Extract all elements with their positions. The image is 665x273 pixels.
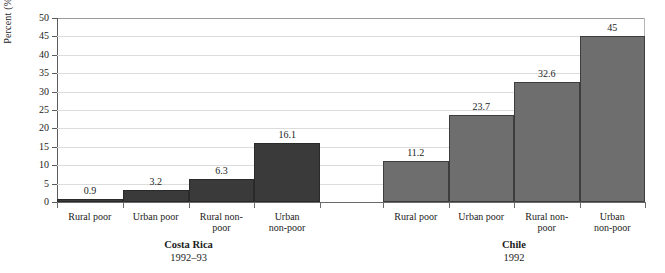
group-period: 1992–93 (57, 251, 320, 264)
group-period: 1992 (383, 251, 645, 264)
bar-value-label: 3.2 (123, 177, 189, 187)
y-axis-tick-label: 20 (39, 123, 49, 133)
x-axis-tick-mark (383, 202, 384, 208)
group-name: Chile (383, 238, 645, 251)
bar-value-label: 32.6 (514, 69, 580, 79)
bar-value-label: 0.9 (57, 186, 123, 196)
group-name: Costa Rica (57, 238, 320, 251)
bar (383, 161, 449, 202)
y-axis-title: Percent (%) (2, 0, 16, 74)
x-axis-tick-mark (514, 202, 515, 208)
x-axis-category-label: Rural non- poor (514, 211, 580, 233)
x-axis-category-label: Rural non- poor (189, 211, 255, 233)
x-axis-tick-mark (123, 202, 124, 208)
y-axis-tick-label: 40 (39, 50, 49, 60)
x-axis-category-label: Urban poor (123, 211, 189, 222)
x-axis-category-label: Rural poor (383, 211, 449, 222)
y-axis-tick-label: 5 (44, 179, 49, 189)
bar (580, 36, 646, 202)
y-axis-tick-mark (52, 110, 57, 111)
x-axis-tick-mark (57, 202, 58, 208)
plot-area: 05101520253035404550 0.93.26.316.111.223… (57, 18, 645, 202)
x-axis-tick-mark (580, 202, 581, 208)
y-axis-tick-label: 45 (39, 31, 49, 41)
bar (57, 199, 123, 202)
bar (254, 143, 320, 202)
gridline (57, 36, 645, 37)
plot-top-border (57, 18, 645, 19)
y-axis-tick-label: 0 (44, 197, 49, 207)
y-axis-tick-mark (52, 165, 57, 166)
x-axis-tick-mark (254, 202, 255, 208)
x-axis-category-label: Urban non-poor (254, 211, 320, 233)
y-axis-tick-mark (52, 92, 57, 93)
chart-figure: Percent (%) 05101520253035404550 0.93.26… (0, 0, 665, 273)
bar-value-label: 23.7 (449, 102, 515, 112)
y-axis-tick-mark (52, 36, 57, 37)
y-axis-tick-label: 15 (39, 142, 49, 152)
bar-value-label: 11.2 (383, 148, 449, 158)
y-axis-tick-mark (52, 184, 57, 185)
bar (449, 115, 515, 202)
y-axis-tick-label: 25 (39, 105, 49, 115)
bar (514, 82, 580, 202)
x-axis-tick-mark (320, 202, 321, 208)
y-axis-tick-mark (52, 55, 57, 56)
y-axis-tick-label: 50 (39, 13, 49, 23)
y-axis-tick-label: 10 (39, 160, 49, 170)
y-axis-tick-mark (52, 128, 57, 129)
x-axis-tick-mark (189, 202, 190, 208)
y-axis-tick-mark (52, 18, 57, 19)
y-axis-tick-mark (52, 147, 57, 148)
x-axis-line (57, 202, 645, 203)
y-axis-tick-mark (52, 73, 57, 74)
y-axis-tick-label: 30 (39, 87, 49, 97)
y-axis-tick-label: 35 (39, 68, 49, 78)
x-axis-category-label: Urban non-poor (580, 211, 646, 233)
group-caption: Costa Rica1992–93 (57, 238, 320, 264)
x-axis-category-label: Rural poor (57, 211, 123, 222)
x-axis-tick-mark (449, 202, 450, 208)
gridline (57, 55, 645, 56)
bar (123, 190, 189, 202)
bar-value-label: 6.3 (189, 166, 255, 176)
x-axis-category-label: Urban poor (449, 211, 515, 222)
bar (189, 179, 255, 202)
bar-value-label: 16.1 (254, 130, 320, 140)
group-caption: Chile1992 (383, 238, 645, 264)
bar-value-label: 45 (580, 23, 646, 33)
x-axis-tick-mark (645, 202, 646, 208)
